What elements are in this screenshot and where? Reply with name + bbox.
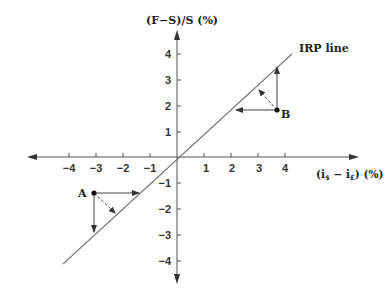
y-axis-down-arrow-icon xyxy=(174,274,180,284)
point-b-label: B xyxy=(281,108,290,121)
svg-text:2: 2 xyxy=(229,162,235,174)
x-tick-labels: −4 −3 −2 −1 1 2 3 4 xyxy=(63,162,289,174)
svg-text:−2: −2 xyxy=(117,162,130,174)
svg-text:2: 2 xyxy=(165,100,171,112)
x-axis-label: (i$ − i£) (%) xyxy=(316,168,383,182)
svg-text:4: 4 xyxy=(165,48,172,60)
point-b xyxy=(274,107,279,112)
svg-text:1: 1 xyxy=(203,162,209,174)
y-axis-label: (F−S)/S (%) xyxy=(146,14,218,27)
x-axis-right-arrow-icon xyxy=(349,154,359,160)
svg-text:−1: −1 xyxy=(144,162,157,174)
svg-text:−2: −2 xyxy=(158,203,171,215)
svg-text:−1: −1 xyxy=(158,177,171,189)
point-a-group: A xyxy=(77,187,139,232)
point-a-label: A xyxy=(77,187,87,200)
y-axis-up-arrow-icon xyxy=(174,30,180,40)
irp-chart: −4 −3 −2 −1 1 2 3 4 4 3 2 1 −1 −2 −3 −4 … xyxy=(0,0,392,297)
irp-line-label: IRP line xyxy=(299,42,349,55)
x-axis-left-arrow-icon xyxy=(27,154,37,160)
point-a xyxy=(91,190,96,195)
svg-text:1: 1 xyxy=(165,126,171,138)
svg-text:−3: −3 xyxy=(158,229,171,241)
svg-text:3: 3 xyxy=(165,74,171,86)
svg-text:−4: −4 xyxy=(63,162,76,174)
svg-text:−3: −3 xyxy=(90,162,103,174)
svg-text:3: 3 xyxy=(256,162,262,174)
svg-text:−4: −4 xyxy=(158,255,171,267)
svg-text:4: 4 xyxy=(282,162,289,174)
point-b-group: B xyxy=(236,67,290,121)
